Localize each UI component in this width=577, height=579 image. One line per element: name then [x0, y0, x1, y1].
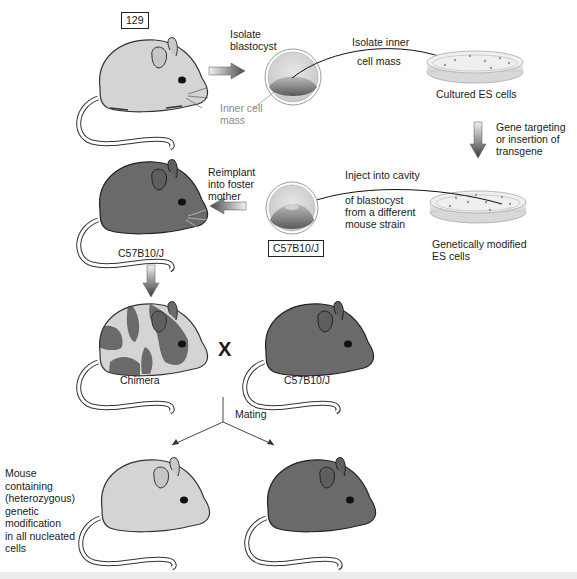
step-isolate-inner-line1: Isolate inner: [352, 36, 409, 49]
foster-mouse-label: C57B10/J: [118, 247, 164, 260]
mating-label: Mating: [235, 408, 267, 421]
strain-label-129: 129: [121, 12, 149, 29]
petri-dish-icon: [425, 48, 525, 84]
genetically-modified-line2: ES cells: [432, 250, 470, 263]
offspring-line: cells: [5, 542, 75, 555]
gene-targeting-line3: transgene: [496, 145, 543, 158]
genetically-modified-line1: Genetically modified: [432, 238, 527, 251]
chimera-label: Chimera: [120, 374, 160, 387]
offspring-line: Mouse: [5, 467, 75, 480]
mating-branch-lines: [160, 395, 300, 455]
blastocyst-recipient-icon: [264, 180, 320, 236]
offspring-line: containing: [5, 480, 75, 493]
inject-curve-arrow: [290, 180, 510, 220]
inner-cell-mass-label-line2: mass: [220, 114, 245, 127]
offspring-line: (heterozygous): [5, 492, 75, 505]
gene-targeting-line2: or insertion of: [496, 133, 560, 146]
mouse-129-light-icon: [70, 28, 220, 148]
inner-cell-mass-label-line1: Inner cell: [220, 102, 263, 115]
arrow-down-icon: [470, 122, 486, 158]
step-isolate-inner-line2: cell mass: [357, 55, 401, 68]
arrow-right-icon: [209, 63, 245, 79]
mouse-chimera-icon: [70, 292, 220, 412]
mouse-offspring-dark-icon: [238, 448, 388, 568]
bottom-border-strip: [0, 572, 577, 579]
gene-targeting-line1: Gene targeting: [496, 121, 565, 134]
offspring-line: modification: [5, 517, 75, 530]
offspring-line: in all nucleated: [5, 530, 75, 543]
cultured-es-cells-label: Cultured ES cells: [436, 88, 517, 101]
mouse-offspring-light-icon: [72, 448, 222, 568]
offspring-line: genetic: [5, 505, 75, 518]
step-isolate-blastocyst-line1: Isolate: [230, 28, 261, 41]
mouse-mate-dark-icon: [236, 292, 386, 412]
mate-strain-label: C57B10/J: [284, 374, 330, 387]
blastocyst-strain-label: C57B10/J: [268, 240, 324, 257]
cross-symbol: X: [218, 338, 231, 361]
offspring-description: Mouse containing (heterozygous) genetic …: [5, 467, 75, 555]
